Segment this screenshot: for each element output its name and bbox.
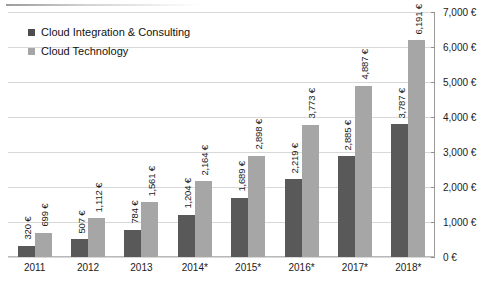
bar[interactable] [71, 239, 88, 257]
y-axis-tick-label: 4,000 € [443, 112, 499, 123]
x-axis-tick-label: 2017* [328, 262, 381, 273]
y-axis-tick-label: 2,000 € [443, 182, 499, 193]
bar-container: 2,885 € [338, 12, 355, 257]
bar-value-label: 784 € [129, 201, 139, 224]
bar[interactable] [195, 181, 212, 257]
bar-value-label: 1,689 € [236, 162, 246, 192]
legend-swatch-dark-icon [28, 29, 35, 36]
bar-container: 3,773 € [302, 12, 319, 257]
y-axis-tick-label: 7,000 € [443, 7, 499, 18]
bar[interactable] [231, 198, 248, 257]
bar[interactable] [338, 156, 355, 257]
x-axis-tick-label: 2016* [275, 262, 328, 273]
chart-legend: Cloud Integration & Consulting Cloud Tec… [28, 24, 190, 62]
x-axis-tick-label: 2014* [168, 262, 221, 273]
bar-value-label: 1,561 € [146, 166, 156, 196]
y-axis-tick-label: 3,000 € [443, 147, 499, 158]
bar-container: 3,787 € [391, 12, 408, 257]
bar-value-label: 2,219 € [290, 143, 300, 173]
bar-value-label: 3,773 € [307, 89, 317, 119]
x-axis-tick-label: 2011 [8, 262, 61, 273]
y-axis-tick-label: 0 € [443, 252, 499, 263]
y-axis-labels: 0 €1,000 €2,000 €3,000 €4,000 €5,000 €6,… [443, 12, 501, 257]
bar[interactable] [178, 215, 195, 257]
bar[interactable] [35, 233, 52, 257]
bar-group: 2,219 €3,773 € [275, 12, 328, 257]
bar[interactable] [141, 202, 158, 257]
x-axis-tick-label: 2018* [382, 262, 435, 273]
bar[interactable] [408, 40, 425, 257]
gridline [8, 257, 435, 258]
x-axis-tick-label: 2015* [222, 262, 275, 273]
bar[interactable] [391, 124, 408, 257]
bar[interactable] [302, 125, 319, 257]
bar-group: 2,885 €4,887 € [328, 12, 381, 257]
bar-value-label: 2,898 € [253, 119, 263, 149]
bar-value-label: 6,191 € [413, 4, 423, 34]
bar-value-label: 3,787 € [396, 88, 406, 118]
legend-swatch-light-icon [28, 48, 35, 55]
bar-chart: 320 €699 €507 €1,112 €784 €1,561 €1,204 … [0, 0, 502, 289]
bar-container: 1,689 € [231, 12, 248, 257]
bar-container: 2,164 € [195, 12, 212, 257]
legend-item[interactable]: Cloud Technology [28, 43, 190, 59]
bar[interactable] [285, 179, 302, 257]
bar-container: 2,219 € [285, 12, 302, 257]
y-axis-tick-label: 5,000 € [443, 77, 499, 88]
bar-container: 6,191 € [408, 12, 425, 257]
x-axis-labels: 2011201220132014*2015*2016*2017*2018* [8, 262, 435, 273]
bar-container: 4,887 € [355, 12, 372, 257]
bar-group: 1,689 €2,898 € [222, 12, 275, 257]
bar[interactable] [88, 218, 105, 257]
bar[interactable] [248, 156, 265, 257]
legend-item-label: Cloud Integration & Consulting [41, 26, 190, 38]
y-axis-tick-label: 6,000 € [443, 42, 499, 53]
bar-value-label: 320 € [23, 217, 33, 240]
bar-value-label: 1,112 € [93, 183, 103, 213]
bar-value-label: 699 € [40, 204, 50, 227]
bar-value-label: 2,164 € [200, 145, 210, 175]
bar[interactable] [124, 230, 141, 257]
x-axis-tick-label: 2012 [61, 262, 114, 273]
legend-item[interactable]: Cloud Integration & Consulting [28, 24, 190, 40]
bar[interactable] [18, 246, 35, 257]
bar-value-label: 1,204 € [183, 179, 193, 209]
y-axis-tick [431, 257, 435, 258]
bar-container: 2,898 € [248, 12, 265, 257]
scan-artifact-line [6, 4, 202, 6]
legend-item-label: Cloud Technology [41, 45, 128, 57]
bar-value-label: 507 € [76, 210, 86, 233]
x-axis-tick-label: 2013 [115, 262, 168, 273]
bar-value-label: 2,885 € [343, 120, 353, 150]
bar[interactable] [355, 86, 372, 257]
y-axis-tick-label: 1,000 € [443, 217, 499, 228]
bar-group: 3,787 €6,191 € [382, 12, 435, 257]
bar-value-label: 4,887 € [360, 50, 370, 80]
